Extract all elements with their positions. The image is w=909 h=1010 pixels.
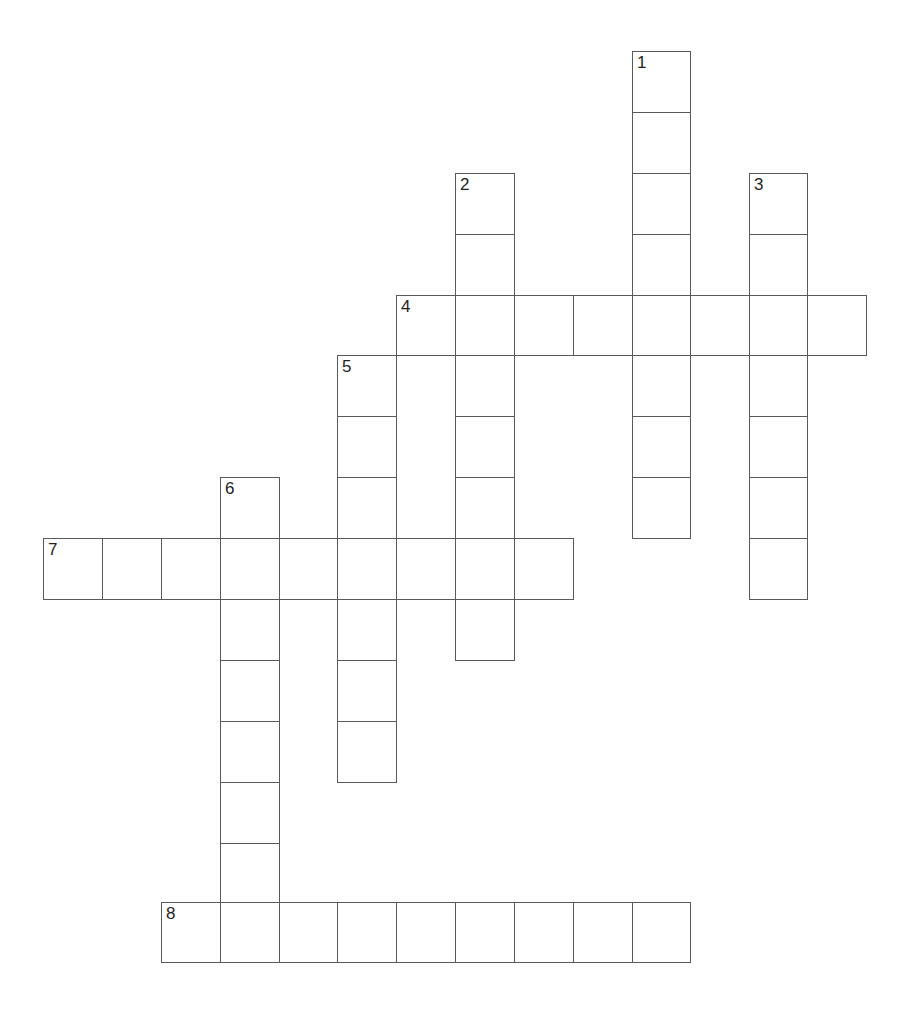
- crossword-cell-start-4[interactable]: 4: [396, 295, 456, 356]
- crossword-cell[interactable]: [337, 416, 397, 478]
- crossword-cell[interactable]: [749, 416, 808, 478]
- crossword-cell[interactable]: [337, 660, 397, 722]
- crossword-cell[interactable]: [632, 173, 691, 235]
- crossword-cell[interactable]: [220, 660, 280, 722]
- clue-number-7: 7: [48, 540, 57, 559]
- crossword-cell[interactable]: [396, 538, 456, 600]
- crossword-cell[interactable]: [573, 295, 633, 356]
- crossword-cell-start-8[interactable]: 8: [161, 902, 221, 963]
- clue-number-2: 2: [460, 175, 469, 194]
- crossword-cell[interactable]: [632, 112, 691, 174]
- crossword-cell[interactable]: [514, 538, 574, 600]
- crossword-cell[interactable]: [396, 902, 456, 963]
- crossword-cell[interactable]: [514, 902, 574, 963]
- crossword-cell[interactable]: [220, 599, 280, 661]
- crossword-cell[interactable]: [220, 538, 280, 600]
- crossword-cell-start-7[interactable]: 7: [43, 538, 103, 600]
- crossword-cell[interactable]: [220, 782, 280, 844]
- crossword-cell[interactable]: [632, 295, 691, 356]
- crossword-cell-start-3[interactable]: 3: [749, 173, 808, 235]
- crossword-cell[interactable]: [102, 538, 162, 600]
- clue-number-5: 5: [342, 357, 351, 376]
- crossword-cell[interactable]: [690, 295, 750, 356]
- clue-number-4: 4: [401, 297, 410, 316]
- crossword-cell[interactable]: [455, 599, 515, 661]
- crossword-cell[interactable]: [455, 477, 515, 539]
- crossword-cell[interactable]: [220, 902, 280, 963]
- crossword-cell[interactable]: [514, 295, 574, 356]
- crossword-cell[interactable]: [807, 295, 867, 356]
- crossword-cell[interactable]: [455, 234, 515, 296]
- crossword-cell[interactable]: [749, 355, 808, 417]
- crossword-cell[interactable]: [337, 477, 397, 539]
- crossword-cell-start-5[interactable]: 5: [337, 355, 397, 417]
- crossword-puzzle-grid: 12345678: [0, 0, 909, 1010]
- crossword-cell[interactable]: [632, 355, 691, 417]
- crossword-cell[interactable]: [337, 902, 397, 963]
- crossword-cell[interactable]: [220, 843, 280, 903]
- crossword-cell[interactable]: [161, 538, 221, 600]
- crossword-cell[interactable]: [632, 902, 691, 963]
- crossword-cell[interactable]: [632, 234, 691, 296]
- crossword-cell-start-2[interactable]: 2: [455, 173, 515, 235]
- crossword-cell[interactable]: [337, 538, 397, 600]
- crossword-cell[interactable]: [337, 599, 397, 661]
- clue-number-8: 8: [166, 904, 175, 923]
- crossword-cell[interactable]: [632, 416, 691, 478]
- crossword-cell[interactable]: [337, 721, 397, 783]
- crossword-cell[interactable]: [749, 477, 808, 539]
- crossword-cell[interactable]: [573, 902, 633, 963]
- crossword-cell[interactable]: [749, 295, 808, 356]
- crossword-cell[interactable]: [279, 538, 338, 600]
- crossword-cell[interactable]: [279, 902, 338, 963]
- clue-number-6: 6: [225, 479, 234, 498]
- crossword-cell[interactable]: [455, 416, 515, 478]
- crossword-cell[interactable]: [455, 295, 515, 356]
- clue-number-1: 1: [637, 53, 646, 72]
- crossword-cell[interactable]: [749, 234, 808, 296]
- crossword-cell[interactable]: [632, 477, 691, 539]
- crossword-cell-start-6[interactable]: 6: [220, 477, 280, 539]
- crossword-cell[interactable]: [749, 538, 808, 600]
- crossword-cell-start-1[interactable]: 1: [632, 51, 691, 113]
- crossword-cell[interactable]: [455, 355, 515, 417]
- crossword-cell[interactable]: [220, 721, 280, 783]
- crossword-cell[interactable]: [455, 538, 515, 600]
- crossword-cell[interactable]: [455, 902, 515, 963]
- clue-number-3: 3: [754, 175, 763, 194]
